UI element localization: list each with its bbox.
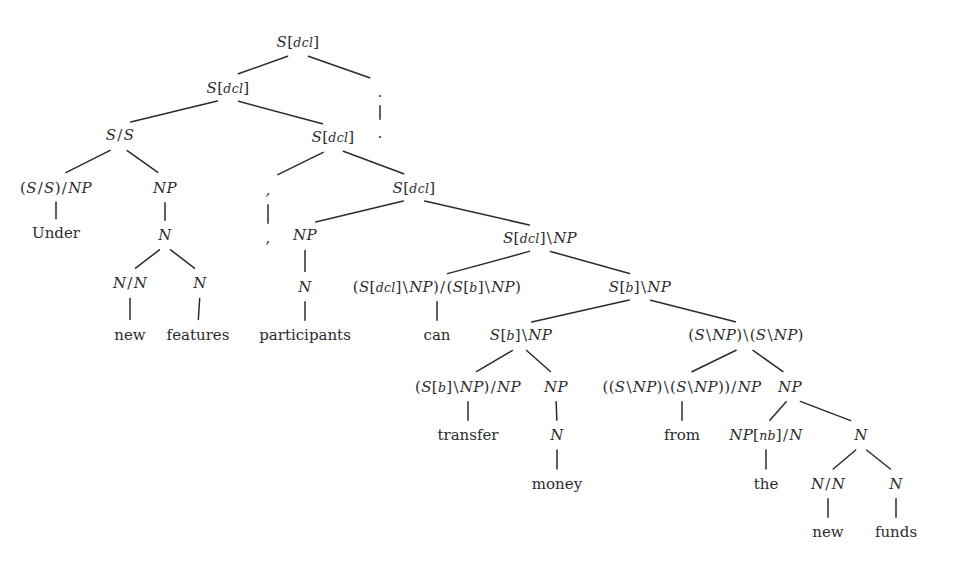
category-node: (S\NP)\(S\NP) [688, 328, 804, 343]
category-node: N [158, 228, 171, 243]
terminal-word-node: the [754, 477, 779, 492]
tree-edge [278, 152, 323, 174]
tree-edge [800, 401, 850, 420]
category-node: NP [153, 181, 177, 196]
category-node: N [193, 276, 206, 291]
tree-edge [308, 56, 369, 78]
tree-edge [316, 201, 404, 222]
terminal-word-node: transfer [437, 428, 498, 443]
terminal-word-node: Under [32, 226, 80, 241]
category-node: NP [293, 228, 317, 243]
category-node: N [298, 280, 311, 295]
tree-edge [476, 350, 512, 371]
terminal-word-node: money [532, 477, 582, 492]
category-node: NP [544, 380, 568, 395]
tree-edge [651, 300, 736, 322]
category-node: (S[b]\NP)/NP [415, 380, 521, 395]
tree-edge [770, 402, 786, 420]
tree-edge [556, 402, 557, 420]
tree-edge [66, 150, 110, 172]
terminal-word-node: features [167, 328, 230, 343]
terminal-word-node: from [664, 428, 700, 443]
terminal-word-node: can [423, 328, 450, 343]
category-node: S[b]\NP [609, 280, 671, 295]
category-node: . [377, 85, 382, 100]
tree-edge [867, 450, 891, 469]
category-node: (S[dcl]\NP)/(S[b]\NP) [353, 280, 521, 295]
tree-edge [198, 298, 199, 319]
category-node: N [854, 428, 867, 443]
tree-edge [171, 250, 195, 268]
category-node: N/N [113, 276, 147, 291]
terminal-word-node: , [266, 231, 271, 246]
tree-edge [425, 201, 530, 225]
category-node: , [265, 183, 270, 198]
category-node: S[dcl]\NP [503, 231, 577, 246]
category-node: S[dcl] [393, 181, 436, 196]
category-node: NP[nb]/N [729, 428, 803, 443]
terminal-word-node: participants [259, 328, 351, 343]
category-node: S[dcl] [312, 130, 355, 145]
category-node: N [889, 477, 902, 492]
tree-edge [238, 56, 287, 74]
tree-edge [551, 251, 630, 273]
tree-edge [527, 350, 551, 371]
tree-edge [532, 300, 630, 322]
tree-edge [127, 151, 158, 173]
ccg-parse-tree: S[dcl]S[dcl].S/SS[dcl].(S/S)/NPNP,S[dcl]… [0, 0, 965, 564]
category-node: NP [778, 380, 802, 395]
tree-edge [753, 350, 783, 371]
category-node: S[dcl] [277, 35, 320, 50]
tree-edge [239, 101, 323, 123]
category-node: (S/S)/NP [20, 181, 92, 196]
category-node: S/S [106, 128, 135, 143]
category-node: S[b]\NP [490, 328, 552, 343]
terminal-word-node: new [812, 525, 843, 540]
category-node: ((S\NP)\(S\NP))/NP [602, 380, 761, 395]
tree-edge [833, 450, 855, 469]
tree-edge [343, 151, 403, 173]
terminal-word-node: new [114, 328, 145, 343]
category-node: N [550, 428, 563, 443]
tree-edge [136, 250, 160, 268]
category-node: S[dcl] [207, 81, 250, 96]
terminal-word-node: . [378, 126, 383, 141]
category-node: N/N [811, 477, 845, 492]
tree-edge [448, 251, 530, 273]
tree-edge [692, 350, 736, 371]
terminal-word-node: funds [875, 525, 917, 540]
tree-edge [131, 101, 218, 122]
